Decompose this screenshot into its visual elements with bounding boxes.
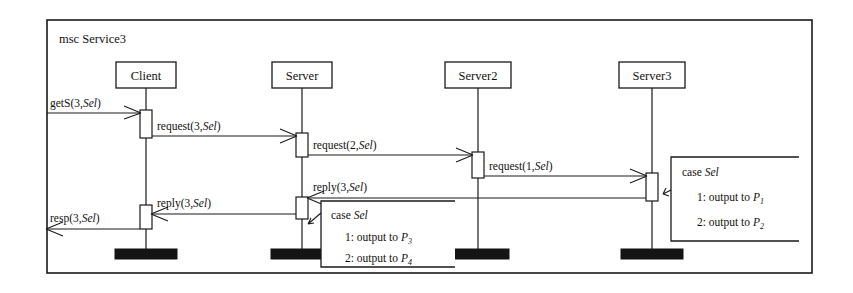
- message-label-reply3-outer: reply(3,Sel): [313, 181, 367, 194]
- terminator-client: [115, 249, 177, 259]
- message-label-request2: request(2,Sel): [313, 139, 377, 152]
- activation-client-1: [140, 110, 152, 138]
- case-box-left-header: case Sel: [331, 209, 368, 221]
- case-box-right[interactable]: case Sel 1: output to P1 2: output to P2: [663, 156, 799, 242]
- message-gets[interactable]: getS(3,Sel): [47, 97, 141, 119]
- activation-server-1: [296, 133, 308, 157]
- instance-label-server: Server: [286, 69, 319, 83]
- case-box-left[interactable]: case Sel 1: output to P3 2: output to P4: [308, 200, 455, 268]
- message-label-resp: resp(3,Sel): [50, 212, 100, 225]
- msc-title: msc Service3: [59, 32, 126, 46]
- msc-svg-root: msc Service3 Client Server Server2: [0, 0, 853, 293]
- message-request1[interactable]: request(1,Sel): [484, 160, 647, 183]
- msc-diagram-canvas: msc Service3 Client Server Server2: [0, 0, 853, 293]
- case-box-right-connector: [663, 188, 671, 196]
- instance-label-server2: Server2: [459, 69, 498, 83]
- activation-client-2: [140, 205, 152, 229]
- case-box-right-header: case Sel: [682, 166, 719, 178]
- terminator-server2: [447, 249, 509, 259]
- instance-label-server3: Server3: [633, 69, 672, 83]
- message-label-reply3-inner: reply(3,Sel): [157, 197, 211, 210]
- message-label-request3: request(3,Sel): [157, 120, 221, 133]
- case-box-left-connector: [308, 213, 321, 224]
- terminator-server3: [621, 249, 683, 259]
- activation-server-2: [296, 197, 308, 219]
- message-request3[interactable]: request(3,Sel): [152, 120, 297, 143]
- message-label-request1: request(1,Sel): [489, 160, 553, 173]
- message-resp[interactable]: resp(3,Sel): [46, 212, 140, 236]
- message-reply3-inner[interactable]: reply(3,Sel): [151, 197, 296, 221]
- message-label-gets: getS(3,Sel): [50, 97, 101, 110]
- instance-label-client: Client: [131, 69, 162, 83]
- activation-server2-1: [472, 152, 484, 178]
- activation-server3-1: [646, 173, 658, 201]
- message-request2[interactable]: request(2,Sel): [308, 139, 473, 162]
